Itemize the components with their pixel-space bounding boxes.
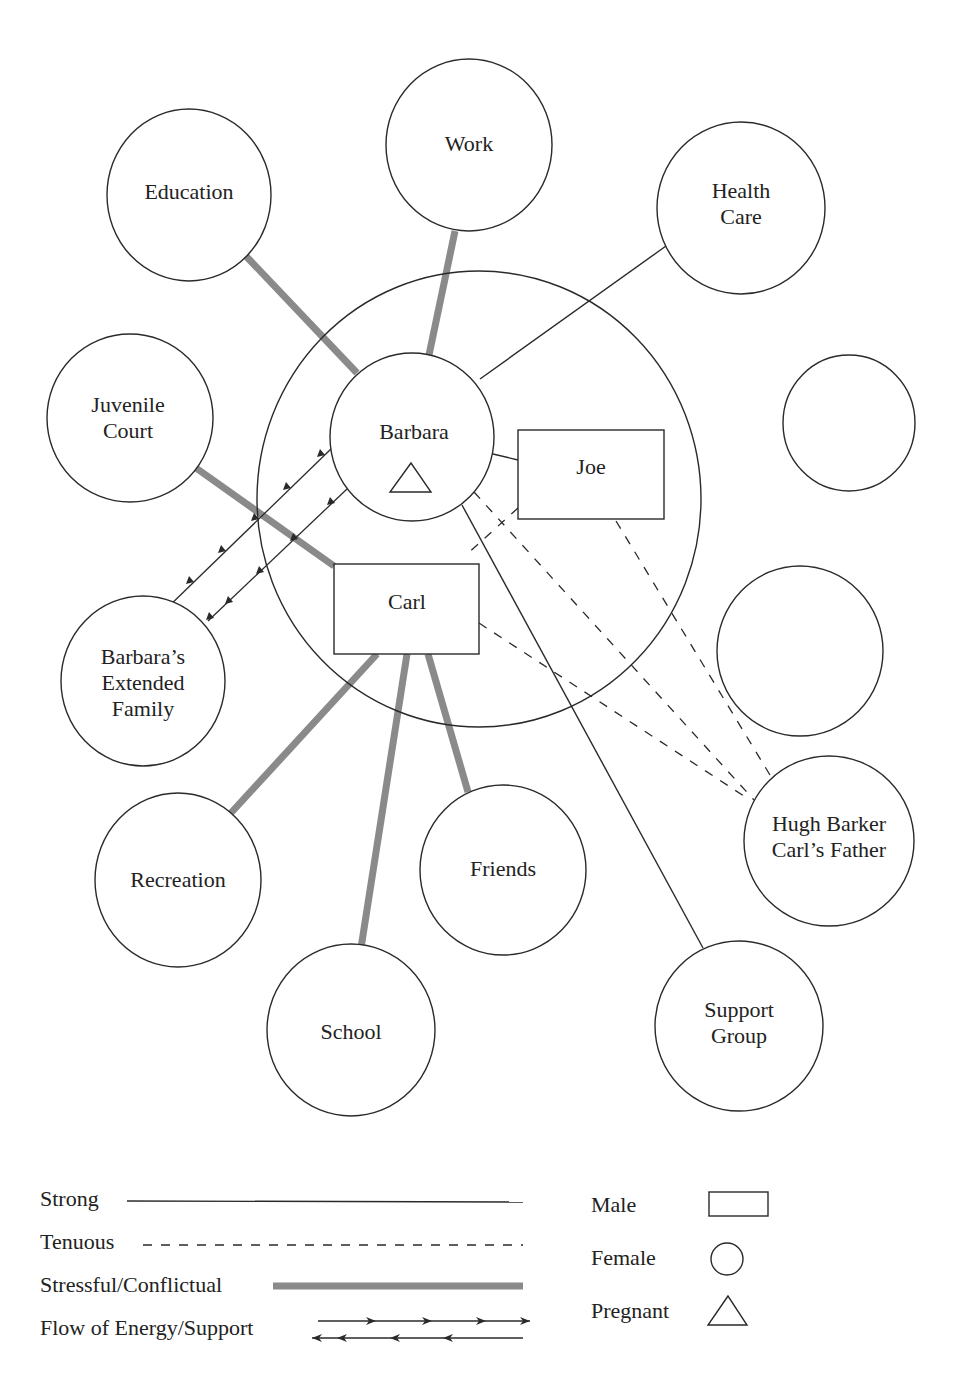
legend: Strong Tenuous Stressful/Conflictual Flo… bbox=[40, 1186, 768, 1342]
node-label: School bbox=[320, 1019, 381, 1044]
node-label: Support bbox=[704, 997, 774, 1022]
legend-pregnant: Pregnant bbox=[591, 1296, 747, 1325]
line-barbara-hugh-barker bbox=[474, 492, 754, 800]
legend-label: Pregnant bbox=[591, 1298, 669, 1323]
node-label: Barbara’s bbox=[101, 644, 185, 669]
line-carl-school bbox=[361, 654, 407, 948]
legend-flow: Flow of Energy/Support bbox=[40, 1315, 530, 1342]
node-label: Juvenile bbox=[91, 392, 164, 417]
node-label: Family bbox=[112, 696, 174, 721]
legend-male: Male bbox=[591, 1192, 768, 1217]
node-school[interactable]: School bbox=[267, 944, 435, 1116]
line-barbara-health-care bbox=[480, 246, 666, 379]
male-rectangle-icon bbox=[709, 1192, 768, 1216]
legend-female: Female bbox=[591, 1243, 743, 1275]
legend-strong: Strong bbox=[40, 1186, 523, 1211]
node-label: Health bbox=[712, 178, 771, 203]
line-carl-recreation bbox=[230, 654, 377, 814]
node-label: Friends bbox=[470, 856, 536, 881]
line-joe-carl bbox=[465, 508, 518, 556]
node-label: Care bbox=[720, 204, 762, 229]
node-joe[interactable]: Joe bbox=[518, 430, 664, 519]
legend-stressful: Stressful/Conflictual bbox=[40, 1272, 523, 1297]
node-label: Hugh Barker bbox=[772, 811, 887, 836]
node-work[interactable]: Work bbox=[386, 59, 552, 231]
node-label: Education bbox=[144, 179, 233, 204]
strong-line-sample bbox=[127, 1201, 523, 1202]
node-label: Joe bbox=[576, 454, 605, 479]
legend-label: Tenuous bbox=[40, 1229, 114, 1254]
node-label: Recreation bbox=[130, 867, 225, 892]
node-label: Extended bbox=[101, 670, 184, 695]
line-barbara-joe bbox=[493, 454, 518, 460]
legend-tenuous: Tenuous bbox=[40, 1229, 523, 1254]
node-label: Work bbox=[445, 131, 493, 156]
node-label: Barbara bbox=[379, 419, 449, 444]
node-label: Carl bbox=[388, 589, 426, 614]
node-barbara[interactable]: Barbara bbox=[330, 353, 494, 521]
node-label: Carl’s Father bbox=[772, 837, 887, 862]
node-juvenile-court[interactable]: Juvenile Court bbox=[47, 334, 213, 502]
legend-label: Flow of Energy/Support bbox=[40, 1315, 253, 1340]
pregnant-triangle-icon bbox=[708, 1296, 747, 1325]
legend-label: Strong bbox=[40, 1186, 99, 1211]
node-hugh-barker[interactable]: Hugh Barker Carl’s Father bbox=[744, 756, 914, 926]
ecomap-diagram: Education Work Health Care Juvenile Cour… bbox=[0, 0, 962, 1386]
legend-label: Stressful/Conflictual bbox=[40, 1272, 222, 1297]
line-barbara-education bbox=[245, 255, 357, 373]
node-education[interactable]: Education bbox=[107, 109, 271, 281]
line-carl-juvenile-court bbox=[196, 468, 334, 566]
legend-label: Male bbox=[591, 1192, 636, 1217]
node-empty-2[interactable] bbox=[717, 566, 883, 736]
line-barbara-work bbox=[429, 231, 455, 355]
female-circle-icon bbox=[711, 1243, 743, 1275]
flow-arrows-sample bbox=[312, 1317, 530, 1342]
line-carl-hugh-barker bbox=[479, 623, 750, 800]
node-recreation[interactable]: Recreation bbox=[95, 793, 261, 967]
flow-carl-extended-family bbox=[206, 489, 347, 621]
node-carl[interactable]: Carl bbox=[334, 564, 479, 654]
node-label: Court bbox=[103, 418, 153, 443]
legend-label: Female bbox=[591, 1245, 656, 1270]
node-friends[interactable]: Friends bbox=[420, 785, 586, 955]
node-extended-family[interactable]: Barbara’s Extended Family bbox=[61, 596, 225, 766]
node-health-care[interactable]: Health Care bbox=[657, 122, 825, 294]
node-empty-1[interactable] bbox=[783, 355, 915, 491]
node-label: Group bbox=[711, 1023, 767, 1048]
node-support-group[interactable]: Support Group bbox=[655, 941, 823, 1111]
